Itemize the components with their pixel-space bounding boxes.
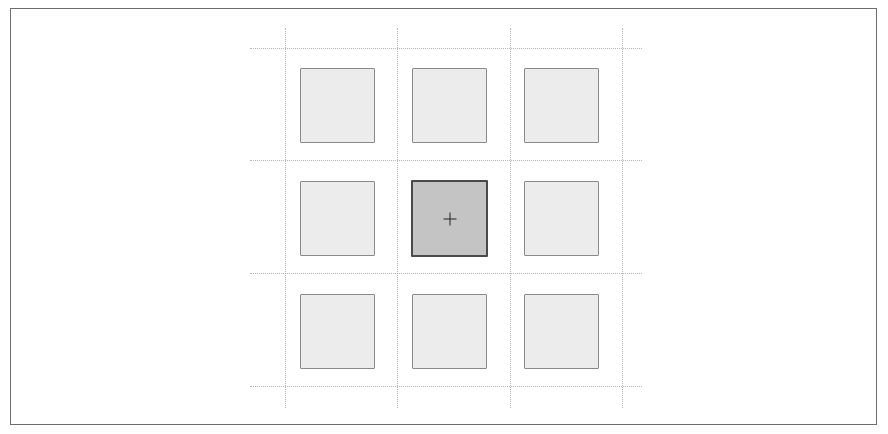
- grid-cell[interactable]: [524, 68, 599, 143]
- crosshair-icon: [443, 212, 456, 225]
- grid-cell[interactable]: [300, 294, 375, 369]
- grid-cell[interactable]: [412, 294, 487, 369]
- guide-line-vertical: [285, 28, 286, 408]
- grid-cell-selected[interactable]: [411, 180, 488, 257]
- guide-line-vertical: [510, 28, 511, 408]
- grid-cell[interactable]: [300, 181, 375, 256]
- guide-line-horizontal: [250, 273, 642, 274]
- guide-line-vertical: [622, 28, 623, 408]
- guide-line-horizontal: [250, 160, 642, 161]
- guide-line-horizontal: [250, 386, 642, 387]
- grid-cell[interactable]: [412, 68, 487, 143]
- grid-cell[interactable]: [300, 68, 375, 143]
- grid-cell[interactable]: [524, 294, 599, 369]
- guide-line-vertical: [397, 28, 398, 408]
- guide-line-horizontal: [250, 48, 642, 49]
- grid-cell[interactable]: [524, 181, 599, 256]
